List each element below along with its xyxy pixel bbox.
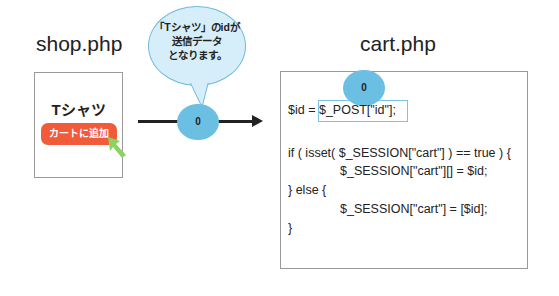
received-data-token: 0: [343, 70, 385, 106]
cursor-arrow-icon: [106, 135, 128, 159]
code-line-1: $id = $_POST["id"];: [288, 103, 396, 117]
shop-page-panel: Tシャツ カートに追加: [34, 72, 123, 178]
code-line-5: $_SESSION["cart"] = [$id];: [340, 202, 487, 216]
code-line-2: if ( isset( $_SESSION["cart"] ) == true …: [288, 146, 511, 160]
flow-arrow-line: [217, 120, 253, 123]
bubble-line-2: 送信データ: [148, 34, 246, 48]
code-line-4: } else {: [288, 183, 326, 197]
bubble-line-3: となります。: [148, 48, 246, 62]
bubble-text: 「Tシャツ」のidが 送信データ となります。: [148, 20, 246, 62]
code-text: $id =: [288, 103, 319, 117]
flow-arrow-line: [138, 120, 180, 123]
code-line-3: $_SESSION["cart"][] = $id;: [340, 164, 487, 178]
bubble-line-1: 「Tシャツ」のidが: [148, 20, 246, 34]
product-name: Tシャツ: [35, 98, 122, 119]
shop-page-title: shop.php: [36, 32, 122, 56]
cart-page-title: cart.php: [360, 32, 436, 56]
code-line-6: }: [288, 221, 292, 235]
arrow-head-icon: [252, 115, 263, 127]
data-token: 0: [177, 104, 219, 140]
code-post-expression: $_POST["id"];: [319, 103, 396, 117]
